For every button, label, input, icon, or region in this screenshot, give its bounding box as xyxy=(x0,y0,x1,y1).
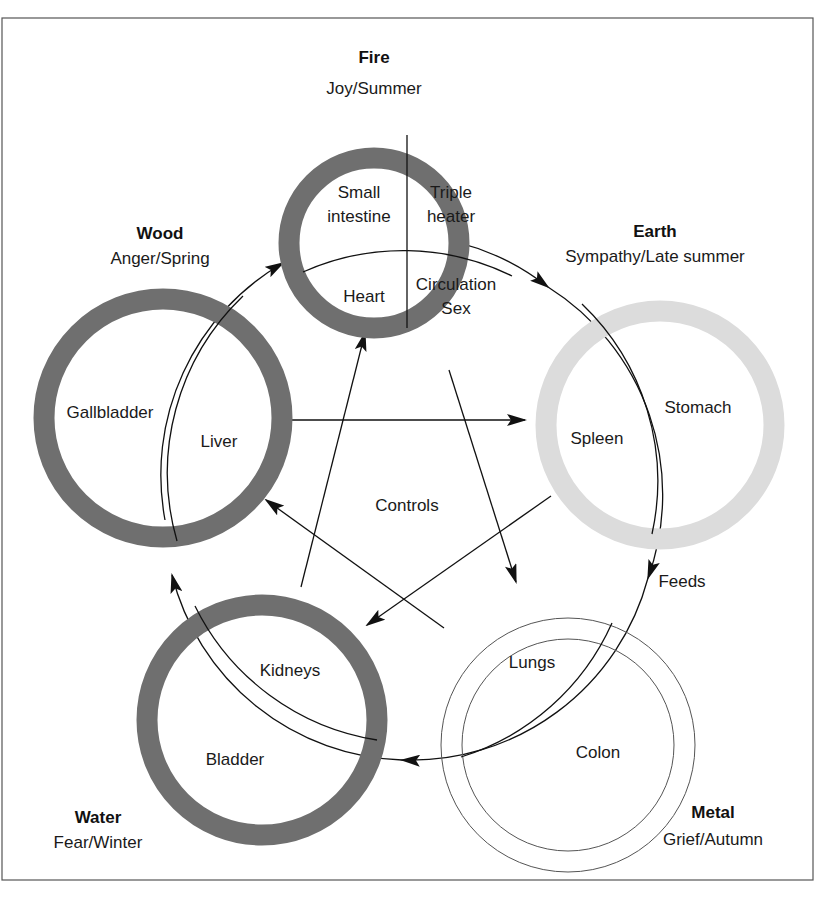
metal-ring-outer xyxy=(441,618,695,872)
wood-title: Wood xyxy=(137,224,184,243)
fire-organ-circulation: Circulation xyxy=(416,275,496,294)
element-metal xyxy=(441,618,695,872)
element-water xyxy=(147,605,377,835)
controls-arrow-fire-metal xyxy=(449,370,516,582)
fire-organ-heater: heater xyxy=(427,207,476,226)
metal-title: Metal xyxy=(691,803,734,822)
feeds-label: Feeds xyxy=(658,572,705,591)
water-organ-kidneys: Kidneys xyxy=(260,661,320,680)
five-elements-diagram: Fire Joy/Summer Small intestine Triple h… xyxy=(0,0,835,906)
fire-subtitle: Joy/Summer xyxy=(326,79,422,98)
water-ring xyxy=(147,605,377,835)
fire-title: Fire xyxy=(358,48,389,67)
element-earth xyxy=(546,311,774,539)
controls-cycle xyxy=(266,333,551,628)
earth-title: Earth xyxy=(633,222,676,241)
fire-organ-heart: Heart xyxy=(343,287,385,306)
metal-ring-inner xyxy=(462,639,674,851)
wood-subtitle: Anger/Spring xyxy=(110,249,209,268)
earth-organ-spleen: Spleen xyxy=(571,429,624,448)
fire-organ-small: Small xyxy=(338,183,381,202)
controls-label: Controls xyxy=(375,496,438,515)
water-organ-bladder: Bladder xyxy=(206,750,265,769)
controls-arrow-earth-water xyxy=(367,496,551,625)
water-title: Water xyxy=(75,808,122,827)
metal-organ-lungs: Lungs xyxy=(509,653,555,672)
metal-subtitle: Grief/Autumn xyxy=(663,830,763,849)
earth-organ-stomach: Stomach xyxy=(664,398,731,417)
water-subtitle: Fear/Winter xyxy=(54,833,143,852)
fire-organ-sex: Sex xyxy=(441,299,471,318)
wood-organ-liver: Liver xyxy=(201,432,238,451)
earth-ring xyxy=(546,311,774,539)
fire-organ-triple: Triple xyxy=(430,183,472,202)
fire-organ-intestine: intestine xyxy=(327,207,390,226)
earth-subtitle: Sympathy/Late summer xyxy=(565,247,745,266)
wood-organ-gallbladder: Gallbladder xyxy=(67,403,154,422)
element-fire xyxy=(289,135,512,328)
metal-organ-colon: Colon xyxy=(576,743,620,762)
